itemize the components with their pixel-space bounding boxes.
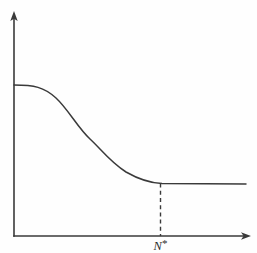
figure-plot: N* <box>0 0 257 253</box>
y-axis <box>10 11 17 236</box>
x-axis-tick-label-n-star: N* <box>153 237 168 253</box>
figure-container: N* <box>0 0 257 253</box>
n-star-asterisk: * <box>162 237 168 249</box>
x-axis <box>14 232 251 239</box>
sigmoid-curve <box>14 85 246 184</box>
